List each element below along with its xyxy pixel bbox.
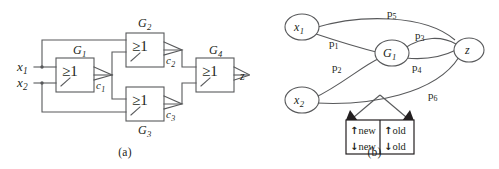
signal-label-c3: c3 xyxy=(166,109,175,120)
input-label-x1: x1 xyxy=(17,60,27,73)
gate-G2-slash xyxy=(131,53,140,61)
signal-label-c2: c2 xyxy=(166,55,175,66)
node-label-x1: x1 xyxy=(294,21,304,33)
arrow-up-icon: ↑ xyxy=(350,125,358,136)
legend-pointer-left xyxy=(354,95,380,117)
figure-root: x1 x2 z ≥1 ≥1 ≥1 ≥1 G1 G2 G3 G4 c1 c2 c3… xyxy=(0,0,499,169)
edge-p1 xyxy=(313,33,380,53)
gate-G4-symbol: ≥1 xyxy=(202,64,218,79)
edge-label-p6: p6 xyxy=(428,90,437,101)
wire-x2-bypass-to-G3 xyxy=(42,83,126,112)
edge-p2 xyxy=(314,58,380,98)
circuit-diagram-svg xyxy=(0,0,250,169)
edge-p5 xyxy=(314,19,455,40)
output-label-z: z xyxy=(240,70,245,82)
edge-label-p3: p3 xyxy=(415,30,424,41)
node-label-x2: x2 xyxy=(294,94,304,106)
edge-label-p2: p2 xyxy=(332,62,341,73)
gate-G3-symbol: ≥1 xyxy=(132,93,148,108)
gate-G1-slash xyxy=(61,78,70,86)
wire-c1-to-G3 xyxy=(112,75,126,99)
legend-cell-up-new: ↑new xyxy=(350,126,376,137)
caption-panel-b: (b) xyxy=(250,146,499,158)
edge-label-p5: p5 xyxy=(387,8,396,19)
input-label-x2: x2 xyxy=(17,76,27,89)
gate-G4-slash xyxy=(201,78,210,86)
edge-label-p1: p1 xyxy=(329,38,338,49)
gate-label-G4: G4 xyxy=(209,44,222,56)
panel-b-path-graph: x1 x2 G1 z p5 p1 p2 p3 p4 p6 ↑new ↑old ↓… xyxy=(250,0,499,169)
gate-label-G1: G1 xyxy=(73,44,86,56)
gate-label-G2: G2 xyxy=(138,17,151,29)
gate-label-G3: G3 xyxy=(138,124,151,136)
arrow-up-icon: ↑ xyxy=(384,125,392,136)
wire-c1-to-G2 xyxy=(112,52,126,75)
legend-cell-up-old: ↑old xyxy=(384,126,406,137)
gate-G2-symbol: ≥1 xyxy=(132,39,148,54)
wire-c3-to-G4 xyxy=(164,83,196,104)
node-label-z: z xyxy=(465,44,470,56)
edge-label-p4: p4 xyxy=(412,62,421,73)
edge-p3 xyxy=(405,38,456,48)
edge-p4 xyxy=(406,50,456,59)
caption-panel-a: (a) xyxy=(0,146,250,158)
legend-pointer-right xyxy=(380,95,406,117)
panel-a-logic-circuit: x1 x2 z ≥1 ≥1 ≥1 ≥1 G1 G2 G3 G4 c1 c2 c3… xyxy=(0,0,250,169)
gate-G1-symbol: ≥1 xyxy=(62,64,78,79)
signal-label-c1: c1 xyxy=(96,80,105,91)
node-label-G1: G1 xyxy=(383,47,396,59)
gate-G3-slash xyxy=(131,107,140,115)
